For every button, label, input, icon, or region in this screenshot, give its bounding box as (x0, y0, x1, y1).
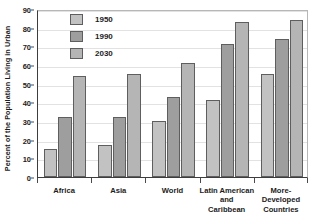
y-tick-label: 70 (23, 43, 31, 52)
x-tick-mark (254, 178, 255, 183)
bar (127, 74, 141, 177)
y-tick-label: 80 (23, 24, 31, 33)
legend-swatch (70, 48, 83, 59)
bar (98, 145, 112, 177)
bar (58, 117, 72, 177)
y-tick-mark (31, 47, 34, 48)
legend-item: 1950 (70, 12, 113, 26)
x-category-label-line: Africa (37, 186, 91, 195)
legend-swatch (70, 31, 83, 42)
x-category-label-line: Asia (91, 186, 145, 195)
x-category-label: More-DevelopedCountries (254, 186, 308, 214)
y-axis-tick-labels: 0102030405060708090 (16, 10, 34, 178)
legend-label: 1990 (95, 32, 113, 41)
x-category-label-line: and (200, 195, 254, 204)
x-category-label: World (145, 186, 199, 195)
x-category-label-line: World (145, 186, 199, 195)
bar (275, 39, 289, 177)
bar-group (201, 11, 255, 177)
bar (44, 149, 58, 177)
x-category-label-line: More- (254, 186, 308, 195)
x-category-label: Africa (37, 186, 91, 195)
y-tick-mark (31, 140, 34, 141)
bar (235, 22, 249, 177)
x-category-label-line: Latin American (200, 186, 254, 195)
x-tick-mark (91, 178, 92, 183)
y-tick-mark (31, 178, 34, 179)
x-tick-mark (307, 178, 308, 183)
x-category-label-line: Developed (254, 195, 308, 204)
legend-label: 1950 (95, 15, 113, 24)
y-tick-mark (31, 159, 34, 160)
y-tick-label: 30 (23, 118, 31, 127)
bar (206, 100, 220, 177)
bar (152, 121, 166, 177)
x-category-label-line: Caribbean (200, 205, 254, 214)
bar (73, 76, 87, 177)
legend-item: 2030 (70, 46, 113, 60)
y-tick-mark (31, 10, 34, 11)
x-tick-mark (145, 178, 146, 183)
bar (221, 44, 235, 177)
bar-chart: Percent of the Population Living in Urba… (0, 0, 313, 223)
x-category-label: Asia (91, 186, 145, 195)
y-tick-mark (31, 103, 34, 104)
y-tick-label: 10 (23, 155, 31, 164)
legend: 195019902030 (70, 12, 148, 64)
y-tick-mark (31, 66, 34, 67)
x-tick-mark (200, 178, 201, 183)
y-tick-label: 20 (23, 136, 31, 145)
x-tick-mark (37, 178, 38, 183)
bar (113, 117, 127, 177)
legend-label: 2030 (95, 49, 113, 58)
bar (261, 74, 275, 177)
bar-group (146, 11, 200, 177)
y-tick-mark (31, 28, 34, 29)
legend-swatch (70, 14, 83, 25)
y-tick-label: 50 (23, 80, 31, 89)
legend-item: 1990 (70, 29, 113, 43)
y-tick-mark (31, 122, 34, 123)
y-tick-label: 40 (23, 99, 31, 108)
x-category-label-line: Countries (254, 205, 308, 214)
y-axis-title-text: Percent of the Population Living in Urba… (4, 25, 13, 170)
bar (290, 20, 304, 177)
y-tick-label: 60 (23, 62, 31, 71)
x-axis-ticks (37, 178, 308, 186)
x-category-label: Latin AmericanandCaribbean (200, 186, 254, 214)
y-tick-mark (31, 84, 34, 85)
bar (181, 63, 195, 177)
y-tick-label: 90 (23, 6, 31, 15)
bar (167, 97, 181, 177)
y-axis-title: Percent of the Population Living in Urba… (0, 0, 16, 196)
x-axis-category-labels: AfricaAsiaWorldLatin AmericanandCaribbea… (37, 186, 308, 223)
bar-group (255, 11, 309, 177)
